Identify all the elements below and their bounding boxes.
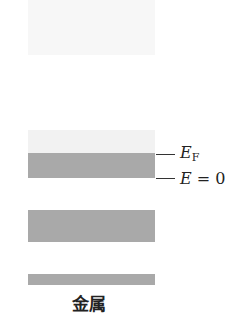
fermi-subscript: F xyxy=(192,151,200,164)
filled-band-lowest xyxy=(28,274,155,285)
fermi-level-label: EF xyxy=(180,145,199,166)
zero-value: 0 xyxy=(215,169,225,188)
band-filled-portion xyxy=(28,153,155,178)
band-empty-portion xyxy=(28,130,155,153)
zero-energy-label: E = 0 xyxy=(180,171,225,187)
equals-sign: = xyxy=(192,169,216,188)
zero-symbol: E xyxy=(180,169,192,188)
fermi-level-tick xyxy=(156,154,175,155)
empty-band-top xyxy=(28,0,155,55)
filled-band-lower xyxy=(28,210,155,242)
zero-energy-tick xyxy=(156,178,175,179)
fermi-symbol: E xyxy=(180,143,192,162)
diagram-caption: 金属 xyxy=(72,290,106,315)
